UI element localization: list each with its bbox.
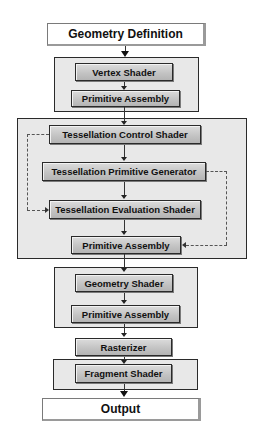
primitive-assembly-label: Primitive Assembly	[82, 240, 169, 251]
primitive-assembly-box-2: Primitive Assembly	[71, 236, 181, 254]
connector-line	[124, 182, 125, 196]
tessellation-control-shader-label: Tessellation Control Shader	[62, 129, 187, 140]
tessellation-evaluation-shader-box: Tessellation Evaluation Shader	[49, 200, 201, 219]
tessellation-control-shader-box: Tessellation Control Shader	[49, 125, 201, 144]
dashed-connector	[206, 171, 227, 172]
tessellation-evaluation-shader-label: Tessellation Evaluation Shader	[55, 204, 195, 215]
vertex-shader-label: Vertex Shader	[92, 67, 155, 78]
fragment-shader-box: Fragment Shader	[75, 364, 172, 383]
primitive-assembly-label: Primitive Assembly	[82, 93, 169, 104]
rasterizer-box: Rasterizer	[75, 338, 172, 356]
geometry-definition-label: Geometry Definition	[68, 27, 183, 41]
tessellation-primitive-generator-box: Tessellation Primitive Generator	[42, 162, 206, 181]
geometry-shader-box: Geometry Shader	[75, 274, 173, 292]
arrow-down-icon	[121, 300, 127, 304]
arrow-down-icon	[120, 391, 128, 397]
output-box: Output	[42, 398, 201, 421]
dashed-connector	[27, 210, 45, 211]
output-label: Output	[101, 402, 140, 416]
geometry-definition-box: Geometry Definition	[47, 23, 206, 46]
arrow-left-icon	[182, 242, 186, 248]
fragment-shader-label: Fragment Shader	[84, 368, 162, 379]
arrow-down-icon	[121, 195, 127, 199]
dashed-connector	[226, 171, 227, 245]
arrow-down-icon	[121, 231, 127, 235]
dashed-connector	[27, 134, 49, 135]
primitive-assembly-label: Primitive Assembly	[82, 309, 169, 320]
arrow-down-icon	[121, 268, 127, 272]
rasterizer-label: Rasterizer	[101, 342, 147, 353]
arrow-down-icon	[121, 333, 127, 337]
arrow-right-icon	[45, 207, 49, 213]
primitive-assembly-box-1: Primitive Assembly	[71, 90, 180, 107]
vertex-shader-box: Vertex Shader	[75, 63, 173, 81]
dashed-connector	[186, 245, 227, 246]
geometry-shader-label: Geometry Shader	[84, 278, 163, 289]
tessellation-primitive-generator-label: Tessellation Primitive Generator	[51, 166, 196, 177]
dashed-connector	[27, 134, 28, 210]
primitive-assembly-box-3: Primitive Assembly	[71, 305, 180, 323]
connector-line	[124, 254, 125, 267]
arrow-down-icon	[121, 157, 127, 161]
